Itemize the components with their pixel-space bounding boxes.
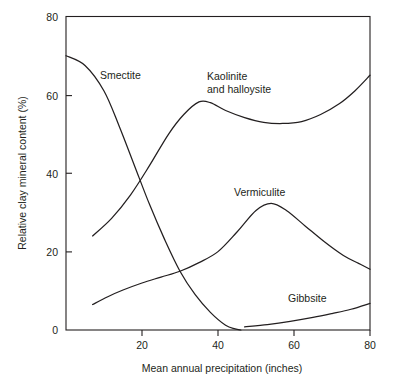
clay-mineral-line-chart: 80 60 40 20 0 20 40 60 80 Mean annual pr…: [0, 0, 394, 388]
y-tick-label-0: 0: [52, 324, 58, 336]
series-label-smectite: Smectite: [100, 69, 141, 81]
curve-smectite: [66, 56, 241, 330]
chart-figure: 80 60 40 20 0 20 40 60 80 Mean annual pr…: [0, 0, 394, 388]
curve-gibbsite: [245, 303, 370, 327]
y-tick-label-40: 40: [46, 168, 58, 180]
y-axis-title: Relative clay mineral content (%): [16, 96, 28, 249]
x-tick-label-20: 20: [136, 339, 148, 351]
series-label-kaolinite-line2: and halloysite: [207, 83, 271, 95]
curve-kaolinite-and-halloysite: [93, 75, 370, 236]
y-tick-label-60: 60: [46, 90, 58, 102]
x-tick-label-80: 80: [364, 339, 376, 351]
series-label-gibbsite: Gibbsite: [288, 292, 327, 304]
y-axis-ticks: [66, 96, 72, 252]
data-curves: [66, 56, 370, 330]
series-label-kaolinite-line1: Kaolinite: [207, 70, 247, 82]
x-axis-title: Mean annual precipitation (inches): [142, 362, 303, 374]
y-tick-label-20: 20: [46, 246, 58, 258]
series-label-vermiculite: Vermiculite: [234, 186, 286, 198]
x-tick-label-40: 40: [212, 339, 224, 351]
curve-vermiculite: [93, 203, 370, 304]
plot-frame: [66, 17, 370, 331]
x-tick-label-60: 60: [288, 339, 300, 351]
x-axis-ticks: [142, 330, 370, 336]
y-tick-label-80: 80: [46, 11, 58, 23]
